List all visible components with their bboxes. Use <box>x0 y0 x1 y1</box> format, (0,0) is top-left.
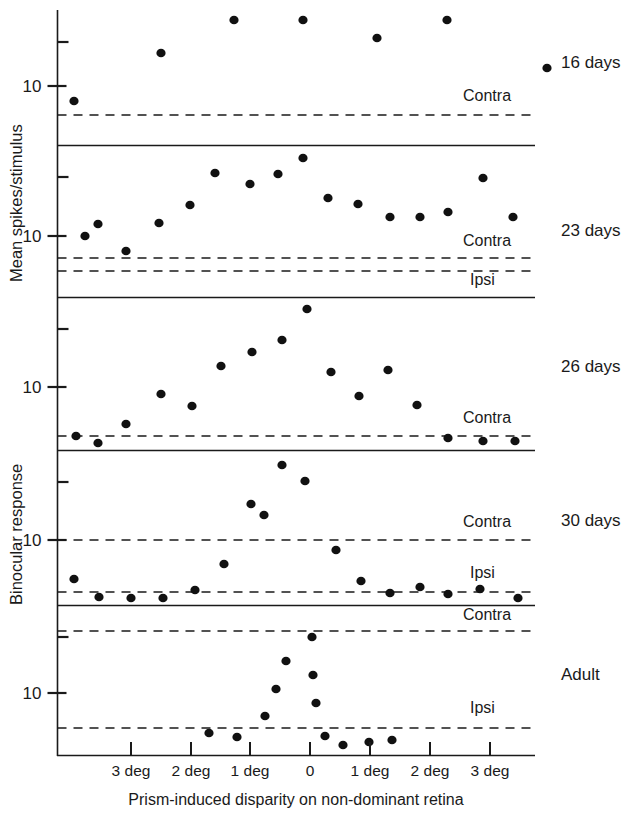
panel-label: Adult <box>561 665 600 684</box>
data-point <box>354 392 363 401</box>
data-point <box>308 671 317 680</box>
data-point <box>210 169 219 178</box>
data-point <box>204 729 213 738</box>
data-point <box>281 657 290 666</box>
reference-line-label-contra: Contra <box>463 87 511 104</box>
data-point <box>356 577 365 586</box>
x-axis-tick-label: 1 deg <box>231 762 270 779</box>
data-point <box>385 589 394 598</box>
panels-layer: 10Contra16 days10ContraIpsi23 days10Cont… <box>23 16 621 750</box>
y-axis-title-bottom: Binocular response <box>7 464 25 605</box>
data-point <box>158 594 167 603</box>
data-point <box>542 64 551 73</box>
data-point <box>229 16 238 25</box>
data-point <box>338 741 347 750</box>
data-point <box>245 180 254 189</box>
x-axis-tick-label: 2 deg <box>411 762 450 779</box>
data-point <box>298 154 307 163</box>
panel-label: 26 days <box>561 357 621 376</box>
data-point <box>387 736 396 745</box>
y-tick-label: 10 <box>23 77 42 96</box>
panel-label: 23 days <box>561 221 621 240</box>
data-point <box>232 733 241 742</box>
data-point <box>156 49 165 58</box>
data-point <box>331 546 340 555</box>
data-point <box>246 500 255 509</box>
data-point <box>443 208 452 217</box>
scatter-plot: 10Contra16 days10ContraIpsi23 days10Cont… <box>0 0 643 821</box>
panel-label: 30 days <box>561 511 621 530</box>
panel-adult: 10ContraIpsiAdult <box>23 606 600 749</box>
data-point <box>353 200 362 209</box>
data-point <box>443 590 452 599</box>
data-point <box>93 439 102 448</box>
y-axis-title-top: Mean spikes/stimulus <box>7 124 25 282</box>
data-point <box>307 633 316 642</box>
y-tick-label: 10 <box>23 378 42 397</box>
x-axis-tick-label: 0 <box>306 762 315 779</box>
reference-line-label-ipsi: Ipsi <box>470 699 495 716</box>
data-point <box>326 368 335 377</box>
panel-label: 16 days <box>561 53 621 72</box>
data-point <box>94 593 103 602</box>
reference-line-label-contra: Contra <box>463 409 511 426</box>
data-point <box>190 586 199 595</box>
x-axis-tick-label: 3 deg <box>112 762 151 779</box>
data-point <box>259 511 268 520</box>
data-point <box>121 420 130 429</box>
data-point <box>385 213 394 222</box>
data-point <box>298 16 307 25</box>
data-point <box>415 583 424 592</box>
data-point <box>475 585 484 594</box>
data-point <box>513 594 522 603</box>
reference-line-label-ipsi: Ipsi <box>470 271 495 288</box>
data-point <box>510 437 519 446</box>
data-point <box>216 362 225 371</box>
data-point <box>260 712 269 721</box>
data-point <box>277 336 286 345</box>
data-point <box>69 575 78 584</box>
data-point <box>415 213 424 222</box>
data-point <box>372 34 381 43</box>
data-point <box>300 477 309 486</box>
data-point <box>187 402 196 411</box>
panel-30-days: 10ContraIpsi30 days <box>23 461 621 606</box>
reference-line-label-ipsi: Ipsi <box>470 564 495 581</box>
data-point <box>121 247 130 256</box>
data-point <box>277 461 286 470</box>
panel-16-days: 10Contra16 days <box>23 16 621 146</box>
data-point <box>412 401 421 410</box>
data-point <box>478 174 487 183</box>
data-point <box>219 560 228 569</box>
panel-26-days: 10Contra26 days <box>23 305 621 451</box>
x-axis-tick-label: 2 deg <box>172 762 211 779</box>
data-point <box>271 685 280 694</box>
data-point <box>383 366 392 375</box>
data-point <box>273 170 282 179</box>
data-point <box>69 97 78 106</box>
x-axis-tick-label: 1 deg <box>351 762 390 779</box>
data-point <box>311 699 320 708</box>
data-point <box>156 390 165 399</box>
reference-line-label-contra: Contra <box>463 606 511 623</box>
data-point <box>93 220 102 229</box>
x-axis-title: Prism-induced disparity on non-dominant … <box>128 791 463 808</box>
y-tick-label: 10 <box>23 531 42 550</box>
data-point <box>320 732 329 741</box>
data-point <box>508 213 517 222</box>
x-axis-ticks-layer: 3 deg2 deg1 deg01 deg2 deg3 deg <box>112 742 510 779</box>
reference-line-label-contra: Contra <box>463 513 511 530</box>
data-point <box>323 194 332 203</box>
reference-line-label-contra: Contra <box>463 232 511 249</box>
x-axis-tick-label: 3 deg <box>471 762 510 779</box>
data-point <box>80 232 89 241</box>
data-point <box>185 201 194 210</box>
data-point <box>154 219 163 228</box>
data-point <box>442 16 451 25</box>
data-point <box>247 348 256 357</box>
figure-container: 10Contra16 days10ContraIpsi23 days10Cont… <box>0 0 643 821</box>
y-tick-label: 10 <box>23 684 42 703</box>
y-tick-label: 10 <box>23 227 42 246</box>
panel-23-days: 10ContraIpsi23 days <box>23 154 621 298</box>
data-point <box>126 594 135 603</box>
